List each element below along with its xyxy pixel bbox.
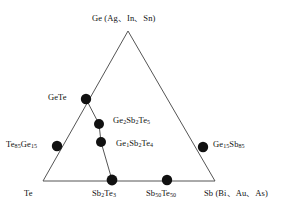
point-label-ge15sb85: Ge15Sb85 [213,140,245,149]
point-label-ge2sb2te5: Ge2Sb2Te5 [113,116,150,125]
marker-sb50te50 [162,175,172,185]
vertex-label-ge: Ge (Ag、In、Sn) [92,14,155,23]
point-label-te85ge15: Te85Ge15 [6,140,37,149]
ternary-diagram-canvas [0,0,292,215]
vertex-label-sb: Sb (Bi、Au、As) [204,189,268,198]
marker-ge2sb2te5 [94,119,104,129]
marker-sb2te3 [107,175,118,186]
point-label-gete: GeTe [48,93,67,102]
marker-ge1sb2te4 [96,137,106,147]
point-label-sb50te50: Sb50Te50 [146,189,176,198]
point-label-ge1sb2te4: Ge1Sb2Te4 [116,139,153,148]
marker-gete [81,94,91,104]
marker-ge15sb85 [198,142,208,152]
triangle-outline [43,31,215,181]
vertex-label-te: Te [24,189,33,198]
ternary-phase-diagram-figure: Ge (Ag、In、Sn) Te Sb (Bi、Au、As) GeTe Te85… [0,0,292,215]
marker-te85ge15 [52,141,62,151]
point-label-sb2te3: Sb2Te3 [92,189,116,198]
